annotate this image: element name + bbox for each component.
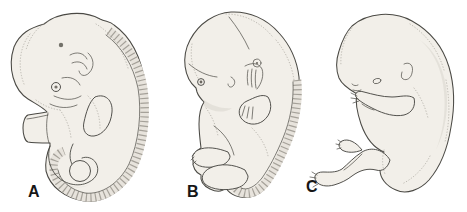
embryo-c-illustration (310, 14, 453, 192)
embryo-b-illustration (185, 12, 300, 198)
embryo-a-otic-pit (59, 43, 63, 47)
panel-label-c: C (306, 178, 318, 195)
panel-label-b: B (187, 183, 199, 200)
embryo-b-eye-lens (200, 81, 203, 84)
panel-label-a: A (28, 183, 40, 200)
figure-canvas: A B C (0, 0, 467, 212)
embryo-stages-figure: A B C (0, 0, 467, 212)
embryo-c-leg-foot (315, 149, 390, 186)
embryo-a-leg-bud (70, 161, 91, 182)
embryo-a-eye-lens (54, 85, 57, 88)
embryo-a-illustration (11, 13, 146, 201)
embryo-b-leg-lower (202, 165, 248, 190)
embryo-c-foot-tucked (339, 140, 362, 152)
